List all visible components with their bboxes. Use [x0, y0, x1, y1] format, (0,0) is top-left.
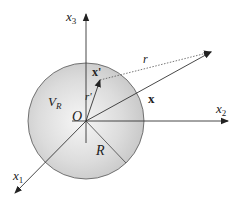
- separation-label: r: [143, 52, 148, 66]
- x3-axis-label: x3: [65, 9, 77, 26]
- source-vector-label: x': [92, 65, 101, 79]
- sphere-diagram: x3 x2 x1 O VR R x x' r' r: [0, 0, 238, 209]
- source-magnitude-label: r': [85, 90, 92, 102]
- field-vector-label: x: [148, 91, 155, 106]
- x2-axis-label: x2: [215, 101, 226, 118]
- origin-label: O: [72, 109, 82, 124]
- diagram-canvas: x3 x2 x1 O VR R x x' r' r: [0, 0, 238, 209]
- x1-axis-label: x1: [12, 168, 23, 185]
- radius-label: R: [95, 143, 105, 158]
